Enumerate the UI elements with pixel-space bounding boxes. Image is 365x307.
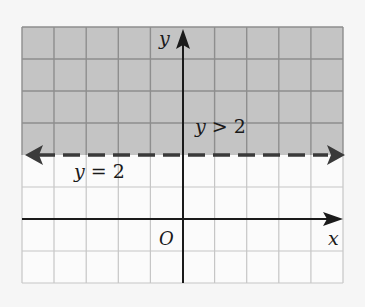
x-axis-label: x	[328, 227, 339, 249]
region-label: y > 2	[194, 115, 246, 137]
origin-label: O	[159, 228, 174, 249]
inequality-graph: y x O y > 2 y = 2	[0, 0, 365, 307]
boundary-label: y = 2	[73, 160, 125, 182]
y-axis-label: y	[158, 27, 170, 49]
